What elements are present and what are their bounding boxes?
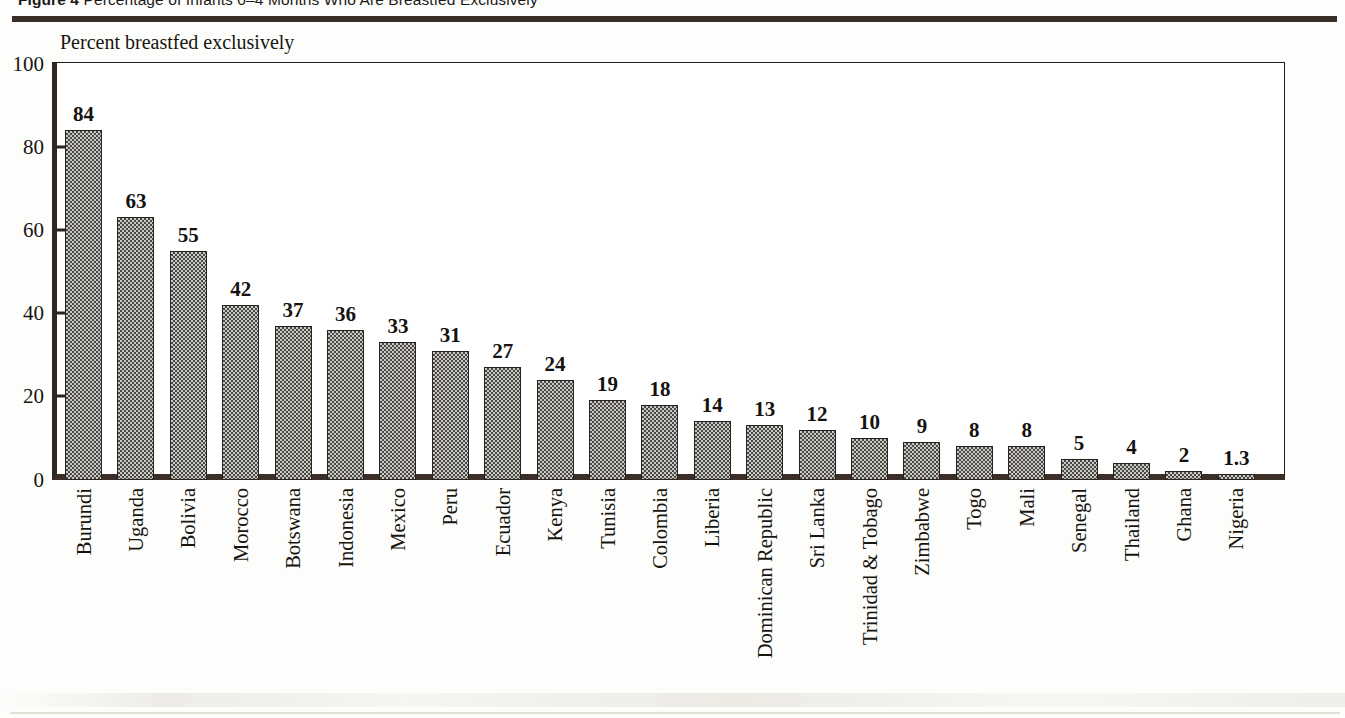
x-axis-label: Peru [432,488,469,688]
y-axis-tick-label: 0 [0,467,44,492]
scan-artifact [0,693,1345,707]
x-axis-label-text: Ecuador [492,488,513,556]
x-axis-label: Liberia [694,488,731,688]
x-axis-label: Botswana [275,488,312,688]
x-axis-label-text: Nigeria [1226,488,1247,549]
bar[interactable] [1113,463,1150,480]
bar-value-label: 63 [104,189,167,214]
bar[interactable] [746,425,783,479]
footer-rule [10,712,1340,714]
bar-slot: 84 [65,64,102,480]
x-axis-label: Ghana [1165,488,1202,688]
bar-slot: 12 [799,64,836,480]
x-axis-label: Bolivia [170,488,207,688]
bar[interactable] [641,405,678,480]
bar-slot: 27 [484,64,521,480]
x-axis-label-text: Bolivia [178,488,199,548]
y-axis-tick-label: 20 [0,384,44,409]
x-axis-label: Morocco [222,488,259,688]
x-axis-label-text: Tunisia [597,488,618,549]
bar[interactable] [275,326,312,480]
bar[interactable] [117,217,154,479]
bar[interactable] [956,446,993,479]
bar[interactable] [170,251,207,480]
bar[interactable] [65,130,102,479]
x-axis-label-text: Mali [1016,488,1037,527]
x-axis-label-text: Kenya [545,488,566,542]
x-axis-label: Ecuador [484,488,521,688]
bar-slot: 9 [903,64,940,480]
header-rule [12,16,1337,22]
x-axis-label: Senegal [1061,488,1098,688]
bar-slot: 5 [1061,64,1098,480]
bar-slot: 13 [746,64,783,480]
bar-slot: 2 [1165,64,1202,480]
bar-slot: 4 [1113,64,1150,480]
x-axis-label: Sri Lanka [799,488,836,688]
bar-slot: 1.3 [1218,64,1255,480]
bar[interactable] [222,305,259,480]
bar-slot: 18 [641,64,678,480]
x-axis-label-text: Colombia [650,488,671,569]
bar-slot: 31 [432,64,469,480]
x-axis-label-text: Uganda [126,488,147,552]
bar-slot: 42 [222,64,259,480]
y-axis-tick-label: 100 [0,51,44,76]
y-axis-tick-label: 60 [0,217,44,242]
x-axis-label: Mali [1008,488,1045,688]
x-axis-label: Trinidad & Tobago [851,488,888,688]
y-axis-title: Percent breastfed exclusively [60,31,294,54]
bar[interactable] [537,380,574,480]
x-axis-label-text: Peru [440,488,461,526]
x-axis-label-text: Thailand [1121,488,1142,561]
x-axis-label-text: Togo [964,488,985,530]
bar[interactable] [1165,471,1202,479]
bar-slot: 63 [117,64,154,480]
bar[interactable] [903,442,940,479]
bar[interactable] [1008,446,1045,479]
bar[interactable] [379,342,416,479]
x-axis-label: Thailand [1113,488,1150,688]
bar[interactable] [851,438,888,480]
x-axis-label-text: Dominican Republic [754,488,775,658]
x-axis-label-text: Zimbabwe [912,488,933,576]
bar-slot: 37 [275,64,312,480]
x-axis-label: Togo [956,488,993,688]
x-axis-label: Zimbabwe [903,488,940,688]
x-axis-label-text: Senegal [1069,488,1090,553]
x-axis-label-text: Trinidad & Tobago [859,488,880,645]
x-axis-label: Burundi [65,488,102,688]
bar[interactable] [1218,474,1255,479]
bar-slot: 19 [589,64,626,480]
bar[interactable] [589,400,626,479]
x-axis-label: Kenya [537,488,574,688]
x-axis-label: Uganda [117,488,154,688]
bar-slot: 33 [379,64,416,480]
bar[interactable] [484,367,521,479]
x-axis-label: Mexico [379,488,416,688]
bar[interactable] [432,351,469,480]
bar[interactable] [327,330,364,480]
bar-slot: 55 [170,64,207,480]
y-axis-tick-label: 80 [0,134,44,159]
x-axis-label: Dominican Republic [746,488,783,688]
x-axis-label-text: Mexico [388,488,409,551]
x-axis-label-text: Botswana [283,488,304,569]
x-axis-label: Indonesia [327,488,364,688]
x-axis-label-text: Burundi [73,488,94,555]
bar-value-label: 84 [52,102,115,127]
bar[interactable] [694,421,731,479]
bar-slot: 8 [956,64,993,480]
bar[interactable] [1061,459,1098,480]
bar-slot: 14 [694,64,731,480]
x-axis-label-text: Morocco [230,488,251,562]
bar-slot: 10 [851,64,888,480]
figure-caption-text: Percentage of Infants 0–4 Months Who Are… [84,0,538,8]
bar[interactable] [799,430,836,480]
x-axis-label: Colombia [641,488,678,688]
figure-page: Figure 4 Percentage of Infants 0–4 Month… [0,0,1345,718]
bar-value-label: 55 [157,223,220,248]
bar-series: 846355423736333127241918141312109885421.… [57,64,1283,480]
x-axis-label-text: Ghana [1174,488,1195,542]
x-axis-label: Nigeria [1218,488,1255,688]
